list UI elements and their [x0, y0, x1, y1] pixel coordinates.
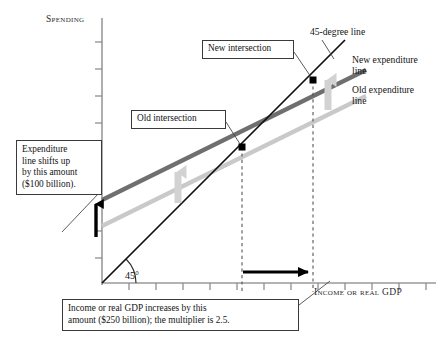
new-expenditure-line-label: New expenditure line: [352, 54, 418, 77]
x-axis-title: Income or real GDP: [314, 287, 402, 297]
forty-five-degree-line-label: 45-degree line: [310, 26, 365, 37]
y-axis-title: Spending: [46, 14, 84, 24]
old-intersection-point: [239, 144, 246, 151]
new-intersection-point: [310, 77, 317, 84]
callout-new-intersection: New intersection: [202, 40, 294, 59]
callout-expenditure-shift: Expenditure line shifts up by this amoun…: [16, 140, 102, 195]
angle-label-45: 45°: [125, 270, 139, 281]
forty-five-degree-line: [102, 40, 345, 283]
leader-expenditure-shift: [62, 193, 99, 232]
callout-old-intersection: Old intersection: [131, 110, 226, 129]
leader-new-intersection: [294, 52, 311, 77]
old-expenditure-line-label: Old expenditure line: [352, 84, 414, 107]
callout-gdp-increase: Income or real GDP increases by this amo…: [62, 299, 299, 331]
diagram-canvas: Spending Income or real GDP 45-degree li…: [0, 0, 436, 337]
